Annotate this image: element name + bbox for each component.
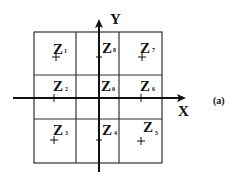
y-axis-label: Y bbox=[110, 11, 121, 27]
svg-text:Z: Z bbox=[53, 122, 63, 138]
svg-text:8: 8 bbox=[113, 47, 116, 53]
svg-text:Z: Z bbox=[53, 41, 63, 57]
svg-text:0: 0 bbox=[112, 86, 115, 92]
figure-label: (a) bbox=[213, 95, 225, 107]
svg-text:Z: Z bbox=[102, 122, 112, 138]
svg-text:Z: Z bbox=[140, 78, 150, 94]
plus-icon bbox=[137, 137, 145, 145]
svg-text:5: 5 bbox=[155, 130, 158, 136]
zone-Z8: Z 8 bbox=[102, 40, 116, 56]
svg-text:Z: Z bbox=[53, 78, 63, 94]
svg-text:Z: Z bbox=[101, 78, 111, 94]
zone-grid-diagram: X Y (a) Z 1 Z 8 Z 7 Z 2 Z 0 Z 6 Z 3 Z 4 … bbox=[0, 0, 241, 189]
svg-text:7: 7 bbox=[152, 47, 155, 53]
zone-Z4: Z 4 bbox=[102, 122, 117, 138]
svg-text:Z: Z bbox=[102, 40, 112, 56]
svg-text:2: 2 bbox=[65, 86, 68, 92]
zone-Z2: Z 2 bbox=[53, 78, 68, 94]
zone-Z5: Z 5 bbox=[143, 119, 158, 136]
svg-text:3: 3 bbox=[65, 130, 68, 136]
x-axis-label: X bbox=[178, 103, 189, 119]
svg-text:1: 1 bbox=[64, 48, 67, 54]
zone-Z6: Z 6 bbox=[140, 78, 155, 94]
svg-text:Z: Z bbox=[143, 119, 153, 135]
zone-Z1: Z 1 bbox=[53, 41, 67, 57]
svg-text:6: 6 bbox=[152, 86, 155, 92]
zone-Z0: Z 0 bbox=[101, 78, 115, 94]
svg-text:4: 4 bbox=[114, 130, 117, 136]
zone-Z3: Z 3 bbox=[53, 122, 68, 138]
